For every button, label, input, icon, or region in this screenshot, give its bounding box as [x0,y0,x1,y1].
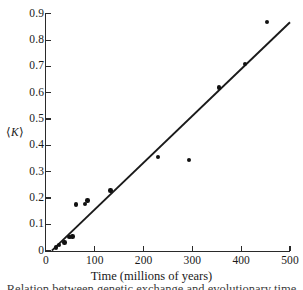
data-point [108,188,112,192]
data-point [57,243,61,247]
x-axis-title: Time (millions of years) [0,269,303,283]
regression-line [0,0,303,290]
data-point [85,198,89,202]
figure-caption-cutoff: Relation between genetic exchange and ev… [0,283,303,290]
data-point [62,240,66,244]
scatter-plot-figure: 00.10.20.30.40.50.60.70.80.9 01002003004… [0,0,303,290]
data-point [70,234,74,238]
